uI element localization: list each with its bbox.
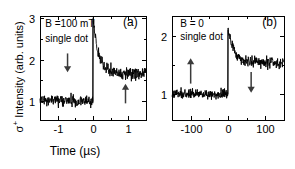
y-tick-label: 2 (161, 31, 167, 43)
y-tick-label: 3 (29, 13, 35, 25)
y-tick-label: 1 (29, 96, 35, 108)
figure-container: -101123B =100 mTsingle dot(a) σ+ Intensi… (0, 0, 295, 169)
x-tick-label: 0 (225, 123, 231, 135)
x-tick-label: -100 (180, 123, 202, 135)
y-axis-title-sigma: σ (13, 126, 25, 133)
x-tick-label: 100 (256, 123, 274, 135)
annotation-text: single dot (45, 33, 88, 44)
annotation-text: B =100 mT (45, 18, 94, 29)
y-axis-title-rest: Intensity (arb. units) (13, 21, 25, 121)
x-tick-label: 1 (125, 123, 131, 135)
x-tick-label: -1 (54, 123, 64, 135)
y-axis-title: σ+ Intensity (arb. units) (11, 7, 25, 147)
y-tick-label: 2 (29, 55, 35, 67)
annotation-text: single dot (180, 31, 223, 42)
y-axis-title-superscript: + (11, 121, 20, 126)
x-tick-label: 0 (90, 123, 96, 135)
y-tick-label: 1 (161, 89, 167, 101)
x-axis-title-a: Time (µs) (0, 144, 150, 158)
polarization-arrow-up (122, 84, 129, 104)
annotation-text: B = 0 (180, 18, 204, 29)
panel-tag-label: (b) (262, 15, 277, 29)
panel-tag-label: (a) (123, 15, 138, 29)
panel-b: -100010012B = 0single dot(b) Time (µs) (150, 0, 295, 169)
panel-b-plot: -100010012B = 0single dot(b) (150, 0, 295, 169)
polarization-arrow-up (187, 58, 194, 83)
polarization-arrow-down (248, 72, 255, 93)
panel-a: -101123B =100 mTsingle dot(a) σ+ Intensi… (0, 0, 150, 169)
polarization-arrow-down (64, 53, 71, 72)
